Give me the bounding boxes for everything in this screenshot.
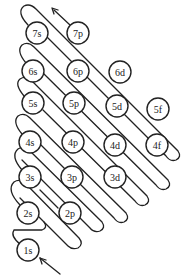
orbital-label: 6d (115, 67, 125, 78)
start-arrow-line (40, 258, 60, 274)
orbital-label: 6p (73, 66, 83, 77)
orbital-4p: 4p (62, 131, 84, 153)
orbital-7p: 7p (67, 22, 89, 44)
orbital-4s: 4s (19, 131, 41, 153)
orbital-label: 5f (154, 104, 163, 115)
diagram-canvas: 7s7p6s6p6d5s5p5d5f4s4p4d4f3s3p3d2s2p1s (0, 0, 187, 280)
orbital-label: 7p (73, 28, 83, 39)
orbital-7s: 7s (26, 22, 48, 44)
orbital-label: 3d (110, 172, 120, 183)
orbital-2p: 2p (59, 202, 81, 224)
orbital-label: 3p (67, 172, 77, 183)
orbital-3p: 3p (61, 166, 83, 188)
orbital-1s: 1s (17, 239, 39, 261)
orbital-label: 2p (65, 208, 75, 219)
orbital-label: 5d (112, 101, 122, 112)
orbital-label: 6s (29, 66, 38, 77)
orbital-label: 4f (153, 140, 162, 151)
orbital-6s: 6s (22, 60, 44, 82)
orbital-label: 4p (68, 137, 78, 148)
orbital-label: 1s (24, 245, 33, 256)
orbital-6d: 6d (109, 61, 131, 83)
orbital-label: 2s (24, 208, 33, 219)
orbital-label: 4s (26, 137, 35, 148)
orbital-5f: 5f (147, 98, 169, 120)
orbital-4f: 4f (146, 134, 168, 156)
orbital-5d: 5d (106, 95, 128, 117)
orbital-4d: 4d (104, 134, 126, 156)
orbital-label: 4d (110, 140, 120, 151)
orbital-2s: 2s (17, 202, 39, 224)
orbital-6p: 6p (67, 60, 89, 82)
orbital-3d: 3d (104, 166, 126, 188)
orbital-5s: 5s (22, 92, 44, 114)
orbital-5p: 5p (63, 92, 85, 114)
orbital-label: 5s (29, 98, 38, 109)
orbital-3s: 3s (19, 166, 41, 188)
orbital-label: 3s (26, 172, 35, 183)
orbital-label: 7s (33, 28, 42, 39)
orbital-filling-diagram: 7s7p6s6p6d5s5p5d5f4s4p4d4f3s3p3d2s2p1s (0, 0, 187, 280)
orbital-label: 5p (69, 98, 79, 109)
